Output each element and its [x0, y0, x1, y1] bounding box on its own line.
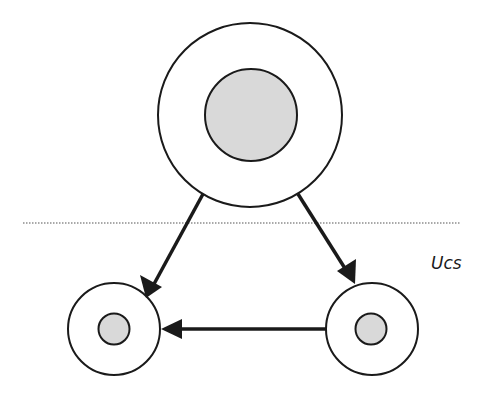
edge-top-to-bottom-right	[298, 194, 356, 284]
arrow-shaft	[298, 194, 346, 270]
arrowhead-icon	[161, 319, 182, 339]
arrow-shaft	[154, 194, 203, 284]
edge-bottom-right-to-bottom-left	[161, 319, 326, 339]
diagram-canvas	[0, 0, 488, 396]
node-bottom-right	[326, 283, 418, 375]
node-top	[158, 23, 342, 207]
node-bottom-left-core	[99, 314, 130, 345]
ucs-label: Ucs	[431, 253, 462, 273]
node-top-core	[205, 69, 297, 161]
edge-top-to-bottom-left	[140, 194, 203, 298]
node-bottom-right-core	[356, 314, 387, 345]
